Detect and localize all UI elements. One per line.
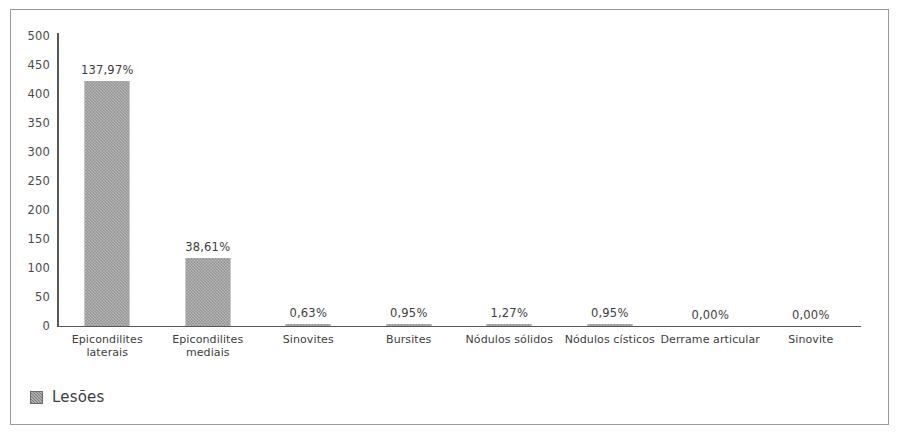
legend-swatch-icon <box>30 391 43 404</box>
y-axis-tick-label: 250 <box>27 174 50 188</box>
bar-column[interactable]: 0,63%Sinovites <box>258 0 359 436</box>
bar[interactable] <box>185 258 230 326</box>
y-axis-tick-label: 200 <box>27 203 50 217</box>
chart-legend: Lesões <box>30 388 105 406</box>
bar-value-label: 1,27% <box>490 306 528 320</box>
legend-label: Lesões <box>52 388 105 406</box>
y-axis-tick-label: 100 <box>27 261 50 275</box>
y-axis-tick-label: 450 <box>27 58 50 72</box>
y-axis-tick-label: 150 <box>27 232 50 246</box>
bar[interactable] <box>386 324 431 326</box>
bar-value-label: 0,95% <box>591 306 629 320</box>
bar-column[interactable]: 38,61%Epicondilites mediais <box>158 0 259 436</box>
y-axis-tick-label: 350 <box>27 116 50 130</box>
bar-column[interactable]: 0,95%Bursites <box>359 0 460 436</box>
bar-value-label: 0,95% <box>390 306 428 320</box>
y-axis-tick-label: 0 <box>42 319 50 333</box>
bar-value-label: 0,00% <box>691 308 729 322</box>
bar[interactable] <box>85 81 130 326</box>
bar-value-label: 137,97% <box>81 63 134 77</box>
y-axis-tick-label: 400 <box>27 87 50 101</box>
bar-group: 137,97%Epicondilites laterais38,61%Epico… <box>57 0 861 436</box>
bar-value-label: 38,61% <box>185 240 230 254</box>
bar-chart: 500450400350300250200150100500 137,97%Ep… <box>0 0 899 436</box>
bar-column[interactable]: 0,00%Sinovite <box>761 0 862 436</box>
bar-column[interactable]: 1,27%Nódulos sólidos <box>459 0 560 436</box>
y-axis-tick-labels: 500450400350300250200150100500 <box>18 0 50 436</box>
bar[interactable] <box>487 324 532 326</box>
y-axis-tick-label: 300 <box>27 145 50 159</box>
bar-value-label: 0,00% <box>792 308 830 322</box>
bar-value-label: 0,63% <box>289 306 327 320</box>
bar[interactable] <box>286 324 331 326</box>
bar-column[interactable]: 137,97%Epicondilites laterais <box>57 0 158 436</box>
y-axis-tick-label: 500 <box>27 29 50 43</box>
y-axis-tick-label: 50 <box>35 290 50 304</box>
bar-column[interactable]: 0,00%Derrame articular <box>660 0 761 436</box>
bar[interactable] <box>587 324 632 326</box>
x-axis-category-label: Sinovite <box>746 334 876 347</box>
bar-column[interactable]: 0,95%Nódulos císticos <box>560 0 661 436</box>
